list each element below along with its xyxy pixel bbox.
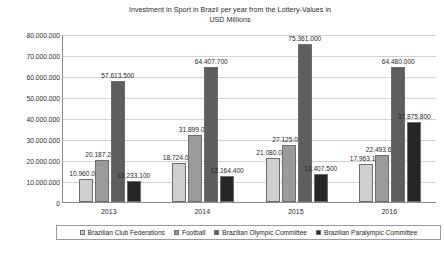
- bar-group: 18.724.00031.899.00064.407.70012.164.400: [157, 35, 251, 202]
- bar[interactable]: [359, 164, 373, 202]
- chart-title: Investment in Sport in Brazil per year f…: [95, 6, 365, 25]
- legend-label: Brazilian Club Federations: [88, 229, 165, 236]
- y-tick-label: 40.000.000: [2, 116, 60, 123]
- bar-value-label: 37.875.800: [392, 113, 436, 120]
- x-tick-label: 2015: [266, 208, 326, 216]
- bar[interactable]: [407, 122, 421, 202]
- y-tick-label: 50.000.000: [2, 95, 60, 102]
- legend-swatch-icon: [316, 230, 321, 235]
- y-tick-label: 60.000.000: [2, 74, 60, 81]
- y-tick-label: 80.000.000: [2, 32, 60, 39]
- bar-chart: Investment in Sport in Brazil per year f…: [0, 0, 444, 263]
- bar[interactable]: [111, 81, 125, 202]
- bar-value-label: 64.407.700: [189, 58, 233, 65]
- y-tick-label: 30.000.000: [2, 137, 60, 144]
- x-tick-label: 2016: [359, 208, 419, 216]
- y-tick-label: 0: [2, 200, 60, 207]
- bar[interactable]: [188, 135, 202, 202]
- legend-item[interactable]: Football: [174, 229, 205, 236]
- bar[interactable]: [79, 179, 93, 202]
- y-tick-label: 20.000.000: [2, 158, 60, 165]
- chart-title-line-2: USD Millions: [95, 16, 365, 26]
- bar-value-label: 64.480.000: [376, 58, 420, 65]
- bar[interactable]: [204, 67, 218, 202]
- x-tick-label: 2013: [79, 208, 139, 216]
- legend-label: Brazilian Paralympic Committee: [324, 229, 417, 236]
- bar[interactable]: [282, 145, 296, 202]
- legend-swatch-icon: [174, 230, 179, 235]
- legend-label: Football: [182, 229, 205, 236]
- y-tick-label: 70.000.000: [2, 53, 60, 60]
- legend-item[interactable]: Brazilian Olympic Committee: [214, 229, 307, 236]
- bar[interactable]: [172, 163, 186, 202]
- legend-swatch-icon: [80, 230, 85, 235]
- legend-item[interactable]: Brazilian Club Federations: [80, 229, 165, 236]
- bar-group: 17.963.10022.493.60064.480.00037.875.800: [344, 35, 438, 202]
- plot-area: 10.960.00020.187.20057.613.50010.233.100…: [62, 35, 436, 203]
- bar-value-label: 12.164.400: [205, 167, 249, 174]
- legend-item[interactable]: Brazilian Paralympic Committee: [316, 229, 417, 236]
- bar-value-label: 10.233.100: [112, 172, 156, 179]
- bar-group: 21.080.00027.125.00075.361.00013.407.500: [250, 35, 344, 202]
- chart-legend: Brazilian Club FederationsFootballBrazil…: [56, 225, 441, 240]
- bar-value-label: 13.407.500: [299, 165, 343, 172]
- bar[interactable]: [391, 67, 405, 202]
- legend-label: Brazilian Olympic Committee: [222, 229, 307, 236]
- bar[interactable]: [220, 176, 234, 202]
- bar[interactable]: [266, 158, 280, 202]
- y-tick-label: 10.000.000: [2, 179, 60, 186]
- bar[interactable]: [298, 44, 312, 202]
- bar[interactable]: [314, 174, 328, 202]
- bar[interactable]: [95, 160, 109, 202]
- y-axis: 80.000.00070.000.00060.000.00050.000.000…: [0, 35, 60, 203]
- legend-swatch-icon: [214, 230, 219, 235]
- x-tick-label: 2014: [172, 208, 232, 216]
- bar[interactable]: [375, 155, 389, 202]
- chart-title-line-1: Investment in Sport in Brazil per year f…: [95, 6, 365, 16]
- bar-group: 10.960.00020.187.20057.613.50010.233.100: [63, 35, 157, 202]
- bar-value-label: 75.361.000: [283, 35, 327, 42]
- bar[interactable]: [127, 181, 141, 202]
- bar-value-label: 57.613.500: [96, 72, 140, 79]
